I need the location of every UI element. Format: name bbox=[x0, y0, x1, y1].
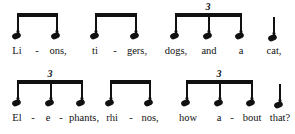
lyric-syllable: and bbox=[201, 44, 216, 58]
note-head bbox=[273, 100, 283, 109]
lyric-syllable: nos, bbox=[141, 111, 158, 125]
lyric-syllable: a bbox=[239, 44, 244, 58]
lyric-syllable: bout bbox=[243, 111, 262, 125]
lyric-syllable: Li bbox=[12, 44, 21, 58]
lyric-syllable: ons, bbox=[49, 44, 66, 58]
lyric-syllable: that? bbox=[270, 111, 290, 125]
lyric-syllable: ti bbox=[92, 44, 98, 58]
lyric-syllable: how bbox=[179, 111, 197, 125]
lyric-syllable: gers, bbox=[127, 44, 147, 58]
lyric-hyphen: - bbox=[113, 44, 117, 58]
lyric-syllable: phants, bbox=[69, 111, 99, 125]
lyrics-row-2: El - e - phants, rhi - nos, how a - bout… bbox=[0, 111, 295, 129]
music-sheet: 3 Li - ons, bbox=[0, 0, 295, 134]
lyric-hyphen: - bbox=[230, 111, 234, 125]
note-head bbox=[267, 33, 277, 42]
lyric-hyphen: - bbox=[35, 44, 39, 58]
quarter-note bbox=[279, 84, 291, 110]
lyrics-row-1: Li - ons, ti - gers, dogs, and a cat, bbox=[0, 44, 295, 62]
lyric-hyphen: - bbox=[31, 111, 35, 125]
lyric-hyphen: - bbox=[129, 111, 133, 125]
music-system-2: 3 bbox=[0, 67, 295, 134]
lyric-syllable: a bbox=[217, 111, 222, 125]
quarter-note bbox=[273, 17, 285, 43]
lyric-syllable: dogs, bbox=[165, 44, 187, 58]
lyric-syllable: cat, bbox=[267, 44, 282, 58]
lyric-syllable: El bbox=[12, 111, 21, 125]
lyric-syllable: e bbox=[46, 111, 51, 125]
music-system-1: 3 Li - ons, bbox=[0, 0, 295, 67]
lyric-syllable: rhi bbox=[106, 111, 118, 125]
lyric-hyphen: - bbox=[59, 111, 63, 125]
